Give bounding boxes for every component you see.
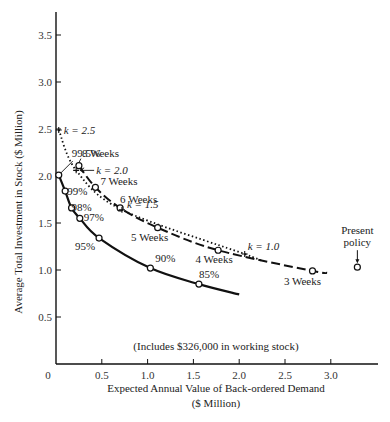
point-label: 5 Weeks	[131, 231, 168, 243]
x-tick-label: 3.0	[324, 369, 338, 381]
point-label: 95%	[75, 240, 95, 252]
x-axis-title: Expected Annual Value of Back-ordered De…	[107, 382, 325, 394]
service-level-marker	[96, 235, 102, 241]
present-policy-label-1: Present	[341, 224, 373, 236]
inventory-tradeoff-chart: 00.51.01.52.02.53.00.51.01.52.02.53.03.5…	[0, 0, 390, 422]
point-label: 7 Weeks	[100, 175, 137, 187]
point-label: 85%	[199, 268, 219, 280]
x-tick-label: 2.5	[278, 369, 292, 381]
lead-time-marker	[92, 184, 98, 190]
leader-line-99-5	[61, 161, 73, 173]
y-tick-label: 1.0	[38, 264, 52, 276]
lead-time-marker	[309, 268, 315, 274]
y-tick-label: 3.0	[38, 76, 52, 88]
leader-line-8-weeks	[79, 159, 81, 163]
x-axis-unit: ($ Million)	[192, 397, 241, 410]
x-tick-label: 1.0	[141, 369, 155, 381]
point-label: 4 Weeks	[196, 253, 233, 265]
y-tick-label: 2.5	[38, 123, 52, 135]
x-tick-label: 1.5	[187, 369, 201, 381]
present-policy-label-2: policy	[344, 236, 372, 248]
k-label: k = 1.5	[127, 198, 159, 210]
y-tick-label: 2.0	[38, 170, 52, 182]
service-level-marker	[147, 265, 153, 271]
x-tick-label: 0.5	[95, 369, 109, 381]
axes: 00.51.01.52.02.53.00.51.01.52.02.53.03.5	[38, 12, 378, 381]
point-label: 90%	[155, 252, 175, 264]
point-label: 97%	[84, 211, 104, 223]
y-axis-title: Average Total Investment in Stock ($ Mil…	[12, 110, 25, 314]
k-label: k = 2.5	[64, 124, 96, 136]
point-label: 99%	[67, 185, 87, 197]
y-tick-label: 0.5	[38, 311, 52, 323]
service-level-marker	[196, 281, 202, 287]
point-label: 8 Weeks	[82, 147, 119, 159]
k-label: k = 1.0	[248, 240, 280, 252]
present-policy-arrowhead	[355, 259, 359, 263]
arrow-k-2-0	[80, 168, 94, 173]
y-tick-label: 3.5	[38, 29, 52, 41]
point-label: 3 Weeks	[284, 275, 321, 287]
lead-time-marker	[76, 163, 82, 169]
working-stock-note: (Includes $326,000 in working stock)	[133, 340, 299, 353]
y-tick-label: 1.5	[38, 217, 52, 229]
k-label: k = 2.0	[96, 164, 128, 176]
x-tick-label: 2.0	[232, 369, 246, 381]
service-level-marker	[77, 215, 83, 221]
x-tick-label: 0	[45, 369, 51, 381]
present-policy-marker	[354, 264, 360, 270]
annotations: 99.5%99%98%97%95%90%85%8 Weeks7 Weeks6 W…	[61, 124, 374, 287]
